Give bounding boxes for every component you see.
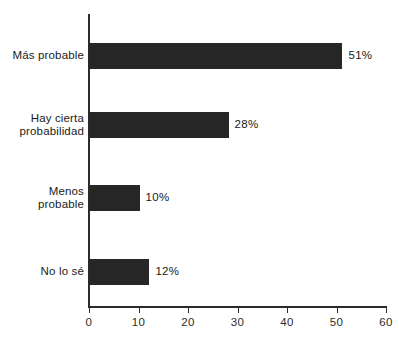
bar [90, 43, 342, 69]
x-axis-tick-mark [188, 306, 189, 313]
x-axis-tick-label: 40 [280, 316, 294, 328]
category-label: Más probable [13, 49, 84, 63]
category-label: Menos probable [38, 185, 84, 212]
x-axis-tick-mark [337, 306, 338, 313]
x-axis-tick-label: 30 [231, 316, 245, 328]
x-axis-tick-mark [386, 306, 387, 313]
x-axis-tick-mark [287, 306, 288, 313]
category-label: No lo sé [41, 265, 84, 279]
category-label: Hay cierta probabilidad [20, 112, 84, 139]
bar-value-label: 12% [155, 265, 179, 277]
bar [90, 259, 149, 285]
x-axis-tick-label: 20 [181, 316, 195, 328]
x-axis-tick-mark [139, 306, 140, 313]
x-axis-tick-label: 60 [379, 316, 393, 328]
bar-value-label: 28% [235, 118, 259, 130]
x-axis-tick-mark [238, 306, 239, 313]
bar-chart: 0102030405060 51%Más probable28%Hay cier… [0, 0, 399, 349]
x-axis-tick-mark [89, 306, 90, 313]
bar [90, 185, 140, 211]
bar [90, 112, 229, 138]
bar-value-label: 10% [146, 191, 170, 203]
x-axis-tick-label: 50 [330, 316, 344, 328]
x-axis-tick-label: 10 [132, 316, 146, 328]
bar-value-label: 51% [348, 49, 372, 61]
x-axis-tick-label: 0 [86, 316, 93, 328]
